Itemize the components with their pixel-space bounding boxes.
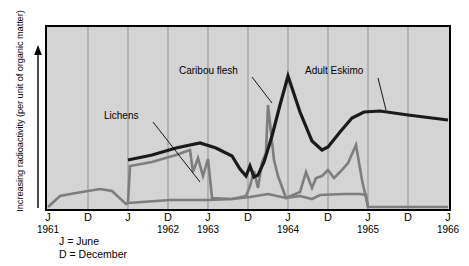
x-year-1964: 1964 [272, 224, 304, 235]
y-axis-title: Increasing radioactivity (per unit of or… [15, 5, 25, 217]
annotation-caribou-flesh: Caribou flesh [179, 65, 238, 76]
chart-figure: Increasing radioactivity (per unit of or… [0, 0, 469, 266]
x-year-1962: 1962 [152, 224, 184, 235]
x-tick-6: J [278, 211, 298, 223]
x-tick-7: D [318, 211, 338, 223]
key-june: J = June [59, 235, 99, 247]
y-axis-arrow [34, 45, 42, 208]
x-tick-0: J [38, 211, 58, 223]
x-tick-2: J [118, 211, 138, 223]
x-year-1966: 1966 [432, 224, 464, 235]
x-tick-1: D [78, 211, 98, 223]
key-december: D = December [59, 248, 127, 260]
x-tick-10: J [438, 211, 458, 223]
x-year-1965: 1965 [352, 224, 384, 235]
x-tick-9: D [398, 211, 418, 223]
annotation-lichens: Lichens [104, 110, 138, 121]
x-year-1961: 1961 [32, 224, 64, 235]
x-tick-5: D [238, 211, 258, 223]
annotation-adult-eskimo: Adult Eskimo [305, 65, 363, 76]
x-year-1963: 1963 [192, 224, 224, 235]
x-tick-4: J [198, 211, 218, 223]
x-tick-3: D [158, 211, 178, 223]
x-tick-8: J [358, 211, 378, 223]
